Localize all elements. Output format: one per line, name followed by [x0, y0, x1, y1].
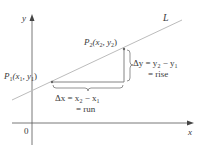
line-label: L	[162, 12, 169, 23]
origin-label: 0	[24, 126, 29, 136]
slope-diagram: y x 0 L P1(x1, y1) P2(x2, y2) Δy = y2 − …	[0, 0, 203, 150]
rise-label: = rise	[148, 69, 168, 79]
run-label: = run	[76, 104, 96, 114]
x-axis-arrow-icon	[187, 121, 194, 126]
y-axis-label: y	[21, 13, 26, 23]
rise-formula: Δy = y2 − y1	[133, 58, 177, 69]
x-axis-label: x	[187, 127, 192, 137]
run-formula: Δx = x2 − x1	[55, 93, 99, 104]
point-P2	[123, 48, 125, 50]
p2-label: P2(x2, y2)	[83, 37, 117, 48]
run-brace	[53, 85, 123, 91]
point-P1	[51, 81, 53, 83]
y-axis-arrow-icon	[30, 14, 35, 21]
